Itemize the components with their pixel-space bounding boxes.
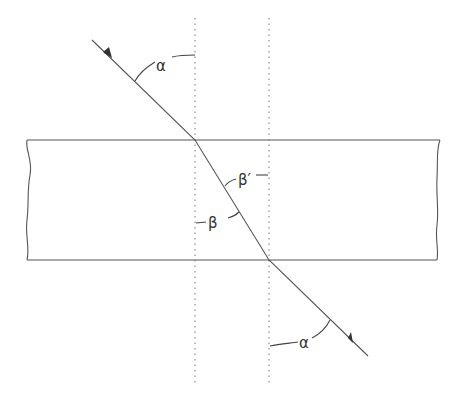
label-beta: β	[208, 214, 218, 232]
diagram-canvas: α β′ β α	[0, 0, 454, 400]
arc-alpha-exit-right	[312, 320, 330, 338]
plate-left-break-edge	[27, 140, 31, 260]
light-ray	[92, 40, 368, 356]
normal-lines	[195, 18, 269, 385]
arc-beta-prime-left	[225, 179, 236, 186]
refraction-diagram: α β′ β α	[0, 0, 454, 400]
arc-alpha-incident-right	[172, 55, 195, 57]
ray-path	[92, 40, 368, 356]
arc-alpha-incident	[135, 62, 155, 81]
plate-right-break-edge	[436, 140, 440, 260]
arc-alpha-exit-left	[270, 342, 298, 346]
label-beta-prime: β′	[238, 171, 252, 189]
label-alpha-incident: α	[156, 57, 166, 75]
arrow-head-incident-icon	[103, 47, 112, 58]
arc-beta-right	[228, 212, 239, 218]
arc-beta-left	[196, 222, 206, 223]
label-alpha-exit: α	[299, 334, 309, 352]
glass-plate	[27, 140, 440, 260]
